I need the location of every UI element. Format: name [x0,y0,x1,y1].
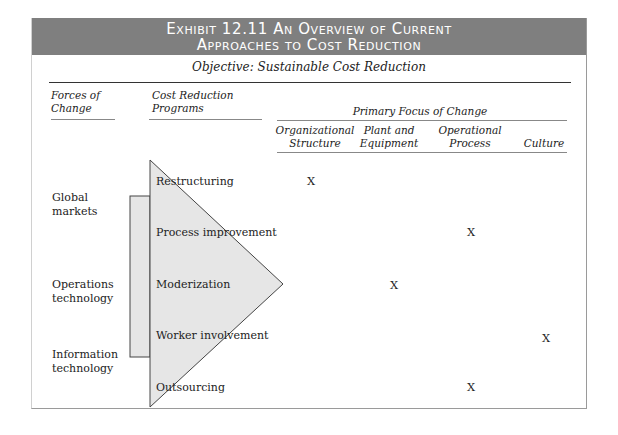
exhibit-box: Exhibit 12.11 An Overview of Current App… [31,18,587,409]
program-process-improvement: Process improvement [156,226,277,240]
program-worker-involvement: Worker involvement [156,329,269,343]
force-line2: technology [52,292,114,306]
program-moderization: Moderization [156,278,230,292]
program-outsourcing: Outsourcing [156,381,225,395]
force-global-markets: Global markets [52,191,98,219]
mark-worker-involvement-culture: X [542,331,550,345]
force-information-technology: Information technology [52,348,118,376]
mark-restructuring-organizational: X [307,174,315,188]
forces-bar-shape [130,196,150,357]
force-operations-technology: Operations technology [52,278,114,306]
force-line2: technology [52,362,118,376]
force-line1: Operations [52,278,114,292]
force-line1: Global [52,191,98,205]
force-line2: markets [52,205,98,219]
mark-process-improvement-operational: X [467,225,475,239]
force-line1: Information [52,348,118,362]
program-restructuring: Restructuring [156,175,234,189]
mark-moderization-plant: X [390,278,398,292]
mark-outsourcing-operational: X [467,380,475,394]
